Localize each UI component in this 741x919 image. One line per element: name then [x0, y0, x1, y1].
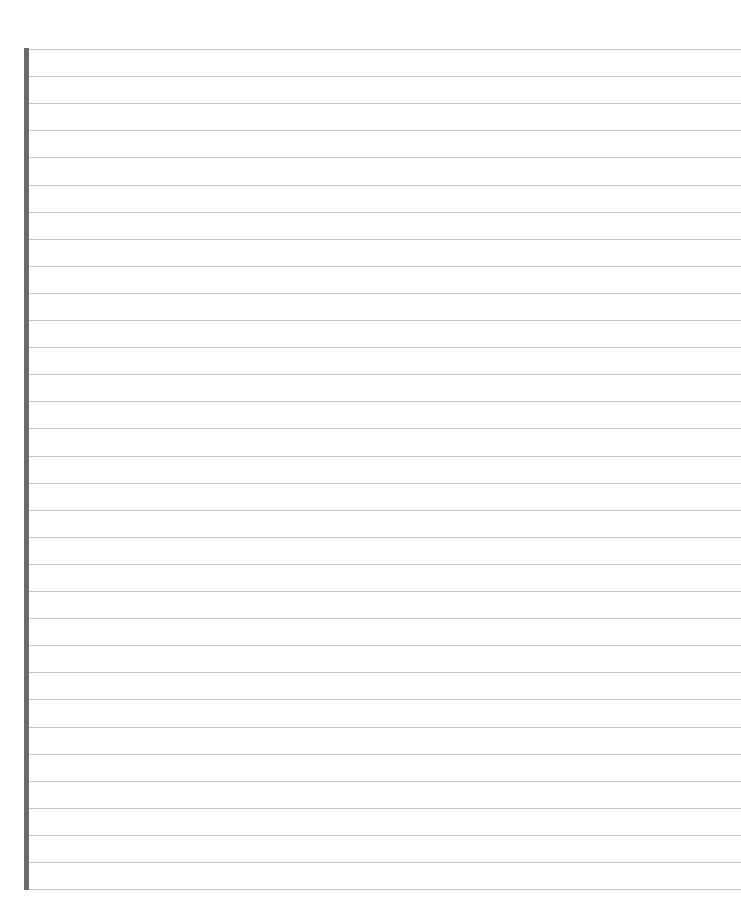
ruled-line [29, 645, 741, 646]
lined-paper-page [0, 0, 741, 919]
ruled-line [29, 76, 741, 77]
ruled-line [29, 835, 741, 836]
ruled-lines [29, 0, 741, 919]
ruled-line [29, 618, 741, 619]
ruled-line [29, 401, 741, 402]
ruled-line [29, 212, 741, 213]
ruled-line [29, 293, 741, 294]
ruled-line [29, 428, 741, 429]
ruled-line [29, 347, 741, 348]
ruled-line [29, 808, 741, 809]
ruled-line [29, 537, 741, 538]
ruled-line [29, 239, 741, 240]
ruled-line [29, 754, 741, 755]
ruled-line [29, 672, 741, 673]
ruled-line [29, 699, 741, 700]
ruled-line [29, 781, 741, 782]
ruled-line [29, 889, 741, 890]
ruled-line [29, 727, 741, 728]
ruled-line [29, 130, 741, 131]
ruled-line [29, 510, 741, 511]
ruled-line [29, 456, 741, 457]
ruled-line [29, 157, 741, 158]
ruled-line [29, 185, 741, 186]
ruled-line [29, 320, 741, 321]
ruled-line [29, 862, 741, 863]
ruled-line [29, 483, 741, 484]
ruled-line [29, 103, 741, 104]
ruled-line [29, 374, 741, 375]
ruled-line [29, 266, 741, 267]
ruled-line [29, 564, 741, 565]
ruled-line [29, 49, 741, 50]
ruled-line [29, 591, 741, 592]
